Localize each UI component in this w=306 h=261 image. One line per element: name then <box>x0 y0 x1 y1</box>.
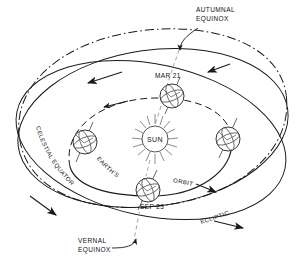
earth-globe-left <box>72 122 98 162</box>
vernal-equinox-label-line2: EQUINOX <box>78 246 111 254</box>
sep23-label: SEP 23 <box>140 203 164 210</box>
sun-label: SUN <box>147 136 163 143</box>
vernal-equinox-label-line1: VERNAL <box>78 237 106 244</box>
ecliptic-direction-arrow <box>30 196 243 228</box>
diagram-canvas: SUN MAR 21 SEP 23 <box>0 0 306 261</box>
astronomy-diagram: SUN MAR 21 SEP 23 <box>0 0 306 261</box>
earths-label: EARTH'S <box>96 155 120 178</box>
earth-globe-right <box>215 118 241 158</box>
mar21-label: MAR 21 <box>155 72 181 79</box>
autumnal-equinox-label-line1: AUTUMNAL <box>196 6 235 13</box>
earth-globe-mar21 <box>159 77 185 114</box>
autumnal-equinox-pointer <box>180 28 198 50</box>
sun-icon: SUN <box>132 114 178 164</box>
autumnal-equinox-label-line2: EQUINOX <box>196 15 229 23</box>
ecliptic-label: ECLIPTIC <box>200 209 231 224</box>
celestial-equator-label: CELESTIAL EQUATOR <box>35 125 76 186</box>
vernal-equinox-pointer <box>112 239 136 248</box>
orbit-label: ORBIT <box>173 177 194 187</box>
